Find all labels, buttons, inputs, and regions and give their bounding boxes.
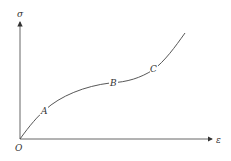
point-b-label: B xyxy=(109,78,117,88)
stress-strain-curve xyxy=(20,33,185,139)
point-c-label: C xyxy=(150,64,157,74)
x-axis-label: ε xyxy=(216,135,221,145)
origin-label: O xyxy=(15,143,23,153)
stress-strain-diagram: σ ε O A B C xyxy=(0,0,231,161)
y-axis-label: σ xyxy=(17,9,24,19)
point-a-label: A xyxy=(40,106,48,116)
